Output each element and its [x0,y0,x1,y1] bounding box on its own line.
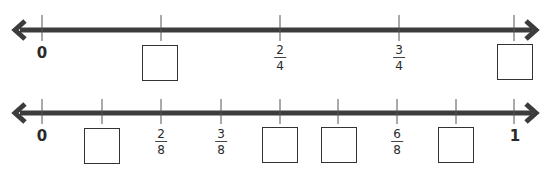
answer-box-7-8[interactable] [438,127,474,163]
denominator: 8 [157,142,165,156]
number-line-eighths [15,99,536,124]
numerator: 2 [155,128,167,142]
answer-box-5-8[interactable] [321,127,357,163]
label-fraction-3-4: 3 4 [393,44,405,72]
label-one: 1 [510,129,520,144]
numerator: 3 [215,128,227,142]
denominator: 8 [217,142,225,156]
answer-box-1-8[interactable] [84,128,120,164]
answer-box-4-8[interactable] [262,127,298,163]
answer-box-1-4[interactable] [142,45,178,81]
label-zero: 0 [37,46,47,61]
numerator: 2 [274,44,286,58]
label-fraction-2-4: 2 4 [274,44,286,72]
answer-box-4-4[interactable] [497,44,533,80]
label-zero-eighths: 0 [37,129,47,144]
label-fraction-3-8: 3 8 [215,128,227,156]
number-line-fourths [15,15,536,41]
denominator: 4 [276,58,284,72]
denominator: 8 [393,142,401,156]
numerator: 3 [393,44,405,58]
label-fraction-2-8: 2 8 [155,128,167,156]
denominator: 4 [395,58,403,72]
numerator: 6 [391,128,403,142]
label-fraction-6-8: 6 8 [391,128,403,156]
